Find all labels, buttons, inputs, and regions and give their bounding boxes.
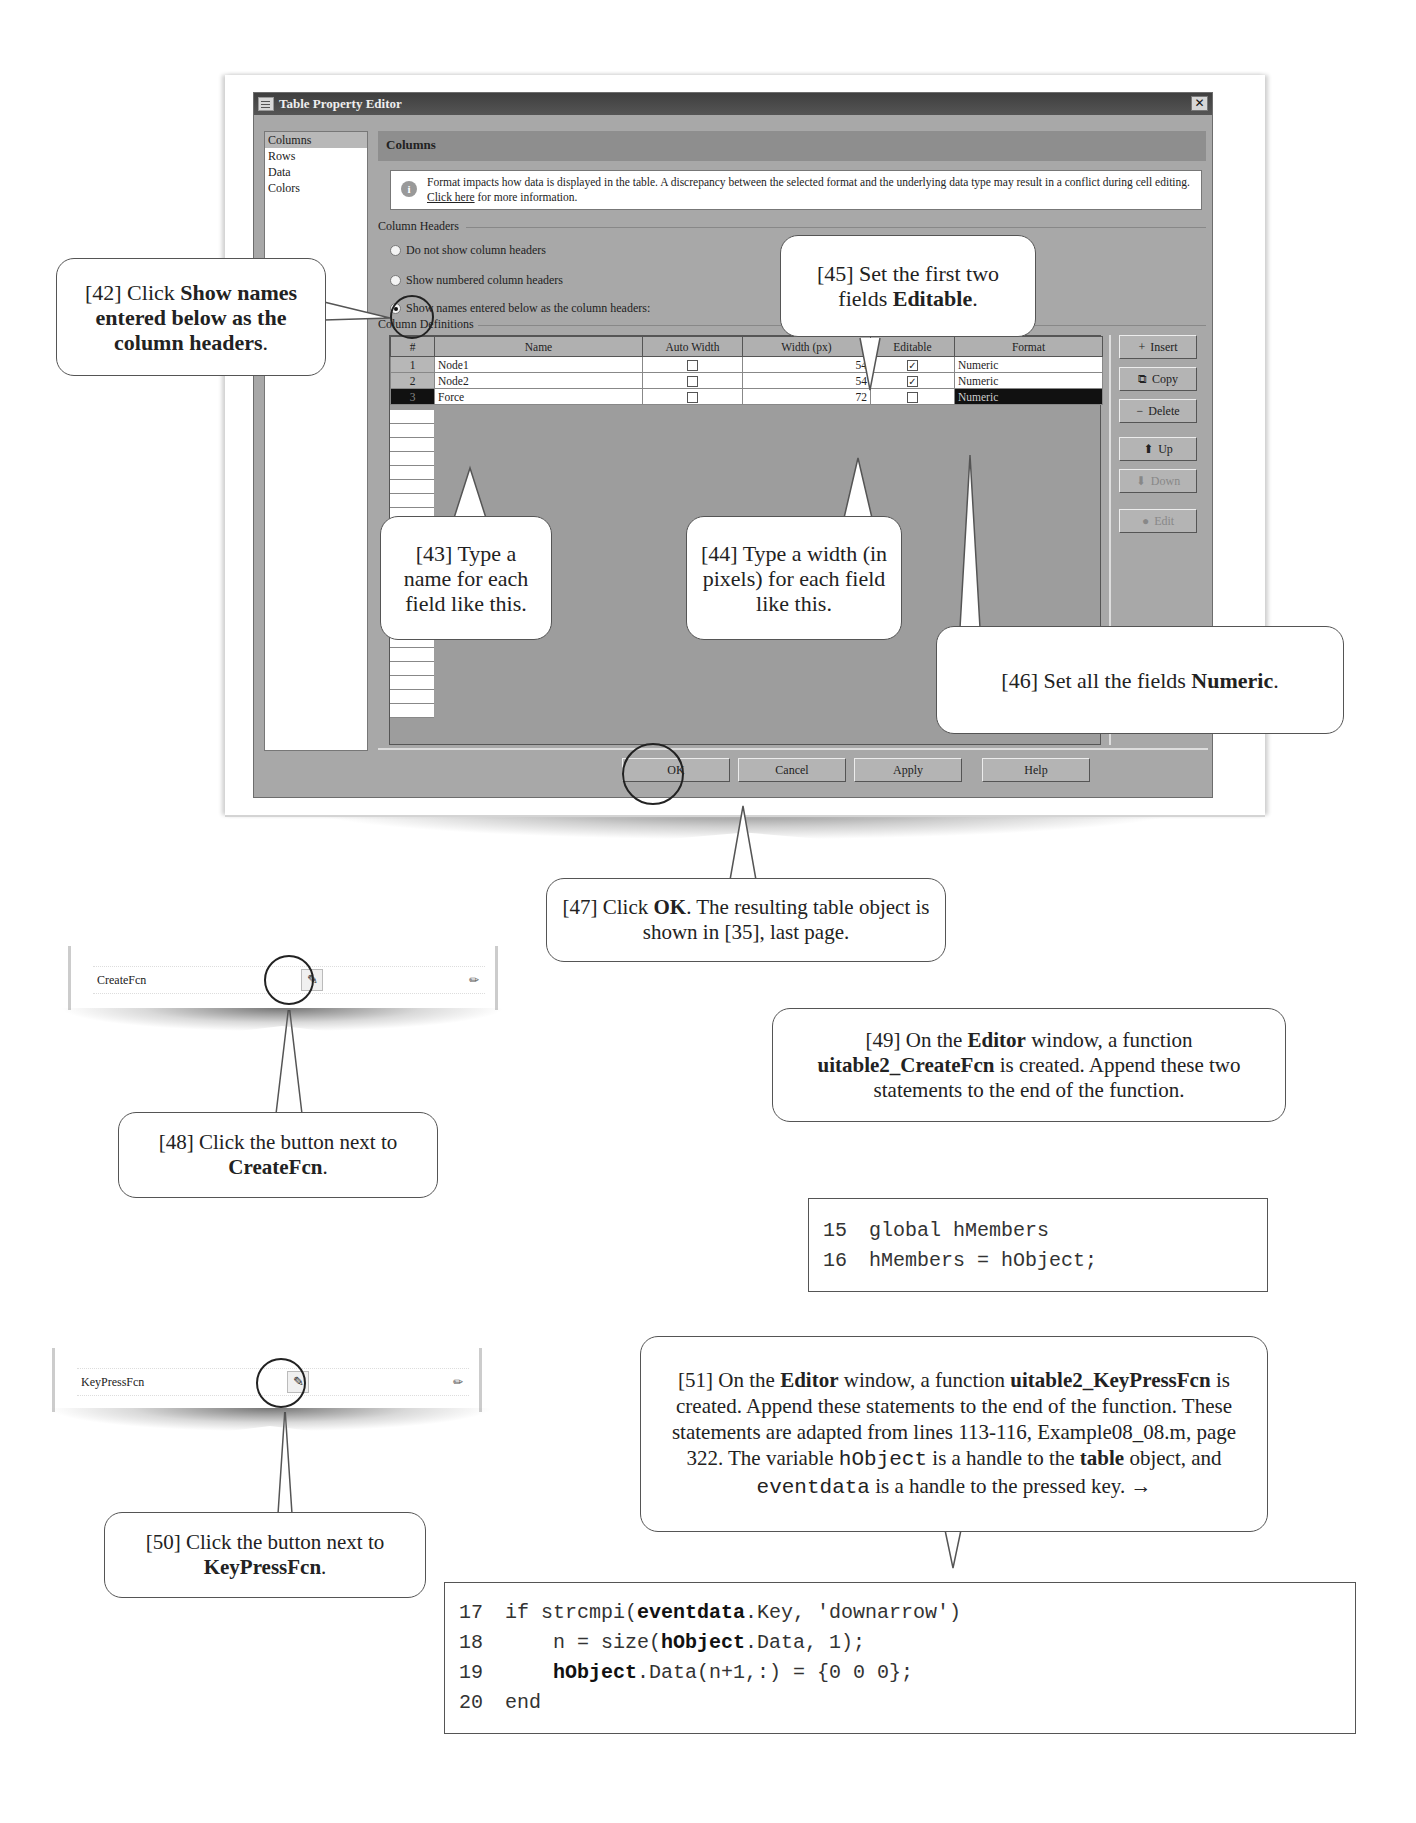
callout-text: . [1273, 668, 1279, 693]
callout-text: [44] Type a width (in pixels) for each f… [697, 541, 891, 616]
code-text: .Data, 1); [745, 1631, 865, 1654]
callout-50: [50] Click the button next to KeyPressFc… [104, 1512, 426, 1598]
code-block-keypressfcn: 17if strcmpi(eventdata.Key, 'downarrow')… [444, 1582, 1356, 1734]
code-line: 19 hObject.Data(n+1,:) = {0 0 0}; [445, 1657, 1355, 1687]
callout-text: window, a function [1026, 1028, 1193, 1052]
callout-bold: uitable2_KeyPressFcn [1010, 1368, 1210, 1392]
callout-code: eventdata [757, 1476, 870, 1499]
keypressfcn-label: KeyPressFcn [81, 1375, 144, 1390]
callout-43: [43] Type a name for each field like thi… [380, 516, 552, 640]
code-bold: eventdata [637, 1601, 745, 1624]
line-number: 15 [809, 1219, 869, 1242]
code-line: 16hMembers = hObject; [809, 1245, 1267, 1275]
callout-text: is a handle to the pressed key. → [870, 1474, 1151, 1498]
callout-42: [42] Click Show names entered below as t… [56, 258, 326, 376]
line-number: 18 [445, 1631, 505, 1654]
callout-text: [42] Click [85, 280, 180, 305]
highlight-circle-keypressfcn [256, 1358, 306, 1408]
callout-bold: Editable [893, 286, 972, 311]
callout-text: [51] On the [678, 1368, 780, 1392]
callout-text: [48] Click the button next to [159, 1130, 398, 1154]
callout-text: . [263, 330, 269, 355]
callout-text: [47] Click [562, 895, 653, 919]
callout-51: [51] On the Editor window, a function ui… [640, 1336, 1268, 1532]
code-line: 15global hMembers [809, 1215, 1267, 1245]
code-text: .Data(n+1,:) = {0 0 0}; [637, 1661, 913, 1684]
callout-bold: Editor [968, 1028, 1026, 1052]
pencil-icon[interactable]: ✏ [469, 973, 479, 988]
code-text: global hMembers [869, 1219, 1049, 1242]
code-text: if strcmpi( [505, 1601, 637, 1624]
callout-47: [47] Click OK. The resulting table objec… [546, 878, 946, 962]
code-line: 18 n = size(hObject.Data, 1); [445, 1627, 1355, 1657]
line-number: 16 [809, 1249, 869, 1272]
callout-text: . [972, 286, 978, 311]
code-text: .Key, 'downarrow') [745, 1601, 961, 1624]
callout-bold: KeyPressFcn [204, 1555, 321, 1579]
code-line: 20end [445, 1687, 1355, 1717]
callout-45: [45] Set the first two fields Editable. [780, 235, 1036, 337]
code-text: end [505, 1691, 541, 1714]
callout-bold: uitable2_CreateFcn [817, 1053, 994, 1077]
code-block-createfcn: 15global hMembers 16hMembers = hObject; [808, 1198, 1268, 1292]
callout-text: [49] On the [865, 1028, 967, 1052]
callout-text: . [322, 1155, 327, 1179]
createfcn-label: CreateFcn [97, 973, 146, 988]
pencil-icon[interactable]: ✏ [453, 1375, 463, 1390]
code-text: hMembers = hObject; [869, 1249, 1097, 1272]
callout-bold: Editor [780, 1368, 838, 1392]
callout-text: . [321, 1555, 326, 1579]
line-number: 17 [445, 1601, 505, 1624]
callout-text: window, a function [839, 1368, 1011, 1392]
callout-48: [48] Click the button next to CreateFcn. [118, 1112, 438, 1198]
callout-text: [43] Type a name for each field like thi… [391, 541, 541, 616]
callout-bold: table [1080, 1446, 1124, 1470]
code-bold: hObject [553, 1661, 637, 1684]
callout-text: [50] Click the button next to [146, 1530, 385, 1554]
callout-text: is a handle to the [927, 1446, 1080, 1470]
highlight-circle-createfcn [264, 955, 314, 1005]
callout-46: [46] Set all the fields Numeric. [936, 626, 1344, 734]
callout-bold: Numeric [1191, 668, 1273, 693]
callout-bold: CreateFcn [228, 1155, 322, 1179]
callout-code: hObject [839, 1448, 927, 1471]
callout-44: [44] Type a width (in pixels) for each f… [686, 516, 902, 640]
callout-text: object, and [1124, 1446, 1221, 1470]
callout-text: . The resulting table object is shown in… [643, 895, 930, 944]
line-number: 20 [445, 1691, 505, 1714]
code-text: n = size( [505, 1631, 661, 1654]
code-text [505, 1661, 553, 1684]
callout-text: [46] Set all the fields [1001, 668, 1191, 693]
code-bold: hObject [661, 1631, 745, 1654]
code-line: 17if strcmpi(eventdata.Key, 'downarrow') [445, 1597, 1355, 1627]
line-number: 19 [445, 1661, 505, 1684]
callout-bold: OK [653, 895, 686, 919]
callout-49: [49] On the Editor window, a function ui… [772, 1008, 1286, 1122]
